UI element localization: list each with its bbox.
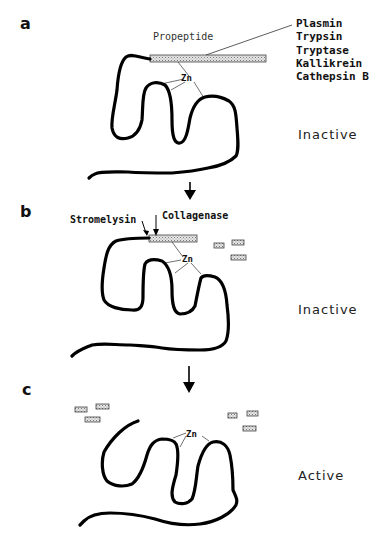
state-label-c: Active bbox=[298, 468, 344, 483]
activator-plasmin: Plasmin bbox=[296, 17, 369, 30]
state-label-b: Inactive bbox=[298, 302, 358, 317]
arrow-b-to-c bbox=[183, 366, 195, 393]
activator-list: Plasmin Trypsin Tryptase Kallikrein Cath… bbox=[296, 17, 369, 83]
released-propeptide-fragments bbox=[214, 240, 246, 260]
activator-tryptase: Tryptase bbox=[296, 44, 369, 57]
activator-cathepsin-b: Cathepsin B bbox=[296, 70, 369, 83]
polypeptide-chain bbox=[80, 421, 237, 525]
state-label-a: Inactive bbox=[298, 127, 358, 142]
arrow-a-to-b bbox=[184, 182, 196, 200]
activator-trypsin: Trypsin bbox=[296, 30, 369, 43]
collagenase-label: Collagenase bbox=[162, 209, 228, 222]
zn-label-c: Zn bbox=[186, 429, 197, 439]
panel-label-b: b bbox=[20, 202, 31, 221]
free-propeptide-fragments bbox=[75, 404, 258, 431]
panel-a-graphic bbox=[89, 25, 292, 178]
activator-kallikrein: Kallikrein bbox=[296, 57, 369, 70]
zn-label-a: Zn bbox=[181, 73, 192, 83]
panel-b-graphic bbox=[72, 215, 246, 356]
activator-pointer-line bbox=[206, 25, 292, 55]
panel-label-c: c bbox=[22, 380, 31, 399]
propeptide-label: Propeptide bbox=[153, 31, 213, 42]
propeptide-bar bbox=[150, 55, 266, 62]
propeptide-bar-cleaved bbox=[149, 235, 197, 242]
polypeptide-chain bbox=[72, 238, 228, 356]
zn-label-b: Zn bbox=[182, 254, 193, 264]
polypeptide-chain bbox=[89, 55, 238, 178]
panel-label-a: a bbox=[20, 14, 31, 33]
panel-c-graphic bbox=[75, 404, 258, 525]
stromelysin-label: Stromelysin bbox=[70, 213, 136, 226]
